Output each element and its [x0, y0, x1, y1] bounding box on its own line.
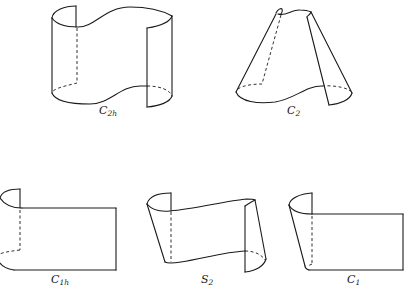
- label-s2: S2: [201, 273, 213, 287]
- label-s2-main: S: [201, 273, 209, 286]
- label-c1h-sub: 1h: [59, 278, 69, 287]
- label-c1-sub: 1: [355, 278, 360, 287]
- label-c2-sub: 2: [295, 109, 300, 118]
- panel-c2h-drawing: [52, 6, 172, 107]
- label-c1: C1: [347, 273, 360, 287]
- label-c1h: C1h: [51, 273, 69, 287]
- panel-c2-drawing: [236, 9, 352, 105]
- label-c2: C2: [287, 104, 300, 118]
- label-c2h: C2h: [99, 104, 117, 118]
- panel-c1h-drawing: [0, 189, 116, 270]
- symmetry-diagram: [0, 0, 408, 289]
- label-c2h-sub: 2h: [107, 109, 117, 118]
- label-s2-sub: 2: [209, 278, 214, 287]
- panel-s2-drawing: [147, 193, 266, 272]
- panel-c1-drawing: [289, 193, 403, 270]
